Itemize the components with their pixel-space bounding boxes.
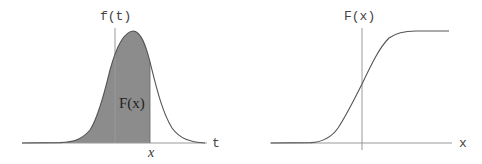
- cdf-panel: F(x) x: [241, 0, 482, 164]
- f-axis-label: f(t): [100, 9, 131, 24]
- x-axis-label: x: [459, 136, 467, 151]
- cdf-curve: [271, 31, 449, 143]
- pdf-panel: f(t) t F(x) x: [0, 0, 241, 164]
- cdf-plot: F(x) x: [241, 0, 482, 164]
- F-axis-label: F(x): [344, 9, 375, 24]
- pdf-plot: f(t) t F(x) x: [0, 0, 241, 164]
- shaded-area-fx: [22, 31, 150, 143]
- x-marker-label: x: [147, 145, 155, 160]
- area-label: F(x): [119, 95, 145, 112]
- t-axis-label: t: [212, 136, 220, 151]
